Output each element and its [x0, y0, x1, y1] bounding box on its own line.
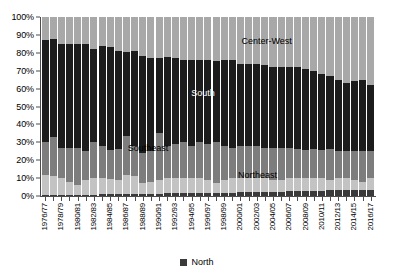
bar-column	[358, 17, 366, 196]
bar-segment-center-west	[107, 17, 114, 47]
bar-segment-south	[115, 51, 122, 149]
bar-segment-center-west	[50, 17, 57, 38]
bar-segment-southeast	[172, 144, 179, 178]
x-axis-label-slot: 2004/05	[269, 202, 277, 248]
bar-segment-north	[302, 191, 309, 196]
bar-segment-north	[269, 192, 276, 196]
legend-label: North	[191, 258, 213, 267]
bar-segment-south	[335, 80, 342, 152]
bar-column	[139, 17, 147, 196]
bar-segment-south	[229, 60, 236, 148]
legend-item[interactable]: North	[180, 258, 213, 267]
bar-segment-center-west	[74, 17, 81, 44]
bar-column	[122, 17, 130, 196]
bar-segment-center-west	[147, 17, 154, 58]
bar-segment-northeast	[172, 178, 179, 193]
x-axis-tick-label: 1998/99	[220, 203, 228, 231]
x-axis-label-slot: 2010/11	[318, 202, 326, 248]
bar-segment-northeast	[99, 178, 106, 194]
bar-segment-center-west	[196, 17, 203, 60]
bar-segment-center-west	[42, 17, 49, 40]
bar-segment-southeast	[335, 151, 342, 178]
x-axis-tick-label: 2006/07	[285, 203, 293, 231]
bar-segment-south	[351, 81, 358, 151]
bar-segment-northeast	[310, 178, 317, 191]
x-axis-tick-label: 1986/87	[122, 203, 130, 231]
bar-segment-north	[253, 192, 260, 196]
bar-column	[179, 17, 187, 196]
bar-segment-southeast	[107, 150, 114, 179]
x-axis-tick-label: 1994/95	[188, 203, 196, 231]
bar-segment-northeast	[107, 179, 114, 194]
x-axis-tick-label: 2008/09	[302, 203, 310, 231]
bar-segment-north	[351, 190, 358, 196]
bar-column	[98, 17, 106, 196]
y-axis-tick-label: 40%	[16, 120, 34, 129]
bar-column	[74, 17, 82, 196]
bar-segment-southeast	[196, 142, 203, 178]
bar-segment-center-west	[213, 17, 220, 61]
bar-segment-center-west	[343, 17, 350, 83]
bar-segment-northeast	[196, 178, 203, 193]
bar-segment-north	[335, 190, 342, 196]
bar-segment-north	[74, 195, 81, 196]
bar-column	[90, 17, 98, 196]
bar-segment-southeast	[42, 142, 49, 174]
bar-segment-south	[156, 58, 163, 133]
annotation-south: South	[191, 89, 215, 98]
bar-segment-north	[221, 193, 228, 196]
bar-segment-southeast	[188, 146, 195, 178]
bar-column	[131, 17, 139, 196]
bar-segment-south	[196, 60, 203, 142]
bar-segment-south	[58, 44, 65, 148]
bar-segment-northeast	[131, 176, 138, 194]
bar-column	[204, 17, 212, 196]
bar-segment-north	[204, 193, 211, 196]
bar-segment-northeast	[204, 180, 211, 193]
bar-segment-northeast	[50, 176, 57, 195]
bar-segment-north	[359, 190, 366, 196]
bar-segment-north	[156, 194, 163, 197]
chart-root: 100%90%80%70%60%50%40%30%20%10%0% Center…	[0, 0, 394, 275]
bar-segment-southeast	[367, 151, 374, 178]
bar-segment-northeast	[213, 183, 220, 193]
bar-segment-center-west	[90, 17, 97, 49]
annotation-southeast: Southeast	[128, 144, 169, 153]
bar-segment-south	[367, 85, 374, 151]
bar-segment-southeast	[213, 142, 220, 183]
x-axis-label-slot: 1994/95	[188, 202, 196, 248]
bar-segment-north	[50, 195, 57, 196]
y-axis-tick-label: 70%	[16, 66, 34, 75]
legend-swatch-icon	[180, 259, 187, 266]
bar-column	[367, 17, 375, 196]
x-axis-tick-label: 1988/89	[139, 203, 147, 231]
bar-segment-northeast	[156, 180, 163, 194]
bar-segment-north	[82, 195, 89, 196]
plot-area-wrapper: 100%90%80%70%60%50%40%30%20%10%0% Center…	[0, 0, 394, 210]
bar-segment-southeast	[180, 142, 187, 178]
bar-segment-south	[204, 60, 211, 144]
bar-column	[49, 17, 57, 196]
bar-segment-southeast	[74, 148, 81, 186]
bar-segment-southeast	[286, 148, 293, 178]
bar-segment-northeast	[245, 178, 252, 192]
bar-segment-north	[261, 192, 268, 196]
x-axis-label-slot: 2006/07	[285, 202, 293, 248]
bar-segment-north	[237, 192, 244, 196]
bar-column	[310, 17, 318, 196]
bar-segment-north	[229, 193, 236, 196]
bar-segment-south	[90, 49, 97, 142]
bar-segment-southeast	[343, 151, 350, 178]
bar-segment-south	[343, 83, 350, 151]
bar-segment-south	[326, 76, 333, 149]
bar-segment-center-west	[310, 17, 317, 71]
x-axis-label-slot: 1998/99	[220, 202, 228, 248]
bar-segment-northeast	[278, 180, 285, 192]
bar-segment-southeast	[221, 146, 228, 180]
bar-column	[302, 17, 310, 196]
bar-column	[220, 17, 228, 196]
bar-segment-south	[74, 44, 81, 148]
bar-segment-south	[278, 67, 285, 148]
x-axis-tick-label: 2000/01	[236, 203, 244, 231]
bar-segment-south	[213, 61, 220, 142]
